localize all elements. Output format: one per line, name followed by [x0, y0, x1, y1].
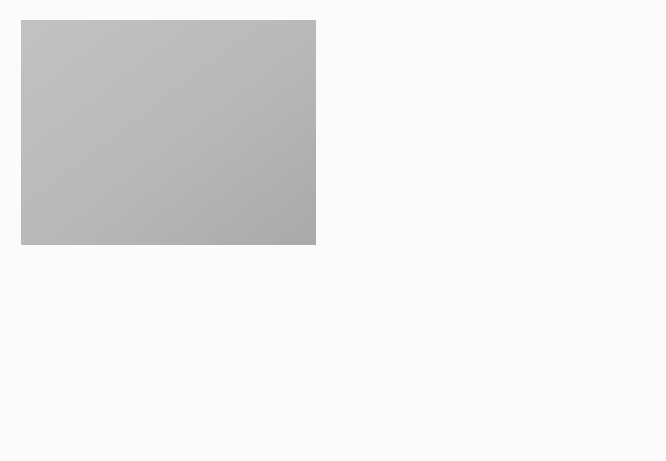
- panel-background: [21, 20, 316, 245]
- metabolic-pathways-diagram: [0, 0, 666, 461]
